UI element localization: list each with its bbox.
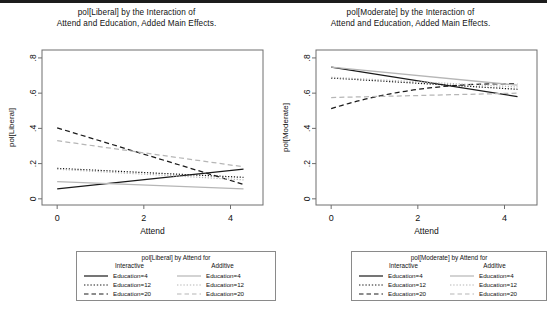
chart-title-line1: pol[Moderate] by the Interaction of <box>274 8 547 19</box>
legend-item: Education=12 <box>83 280 176 289</box>
chart-svg-liberal: 0.2.4.6.8024Attendpol[Liberal] <box>0 32 273 237</box>
legend-item-label: Education=4 <box>109 271 148 280</box>
plot-area-moderate: 0.2.4.6.8024Attendpol[Moderate] <box>274 32 547 237</box>
series-line <box>331 84 517 109</box>
chart-title-line2: Attend and Education, Added Main Effects… <box>274 19 547 30</box>
line-swatch-dotted-light <box>176 280 202 289</box>
legend-title: pol[Liberal] by Attend for <box>77 252 275 262</box>
legend-item-label: Education=4 <box>475 271 514 280</box>
legend-column-additive: Additive Education=4 Education=12 <box>449 262 540 298</box>
y-tick-label: 0 <box>28 196 38 201</box>
line-swatch-dashed-dark <box>83 289 109 298</box>
y-tick-label: .8 <box>28 54 38 61</box>
legend-item: Education=20 <box>83 289 176 298</box>
line-swatch-dashed-light <box>176 289 202 298</box>
line-swatch-solid-light <box>176 271 202 280</box>
y-axis-label: pol[Liberal] <box>7 108 16 147</box>
x-tick-label: 0 <box>329 213 334 223</box>
legend-item: Education=4 <box>358 271 449 280</box>
y-tick-label: .6 <box>28 89 38 96</box>
legend-item-label: Education=20 <box>202 289 244 298</box>
legend-liberal: pol[Liberal] by Attend for Interactive E… <box>76 251 276 301</box>
y-axis-label: pol[Moderate] <box>281 103 290 152</box>
legend-title: pol[Moderate] by Attend for <box>352 252 546 262</box>
line-swatch-dotted-dark <box>83 280 109 289</box>
y-tick-label: .2 <box>302 160 312 167</box>
series-line <box>331 93 517 97</box>
legend-column-head: Interactive <box>358 262 449 271</box>
y-tick-label: .2 <box>28 160 38 167</box>
legend-item-label: Education=4 <box>202 271 241 280</box>
series-line <box>331 78 517 89</box>
legend-item-label: Education=12 <box>475 280 517 289</box>
x-tick-label: 0 <box>55 213 60 223</box>
line-swatch-dotted-dark <box>358 280 384 289</box>
series-line <box>57 128 243 185</box>
legend-moderate: pol[Moderate] by Attend for Interactive … <box>351 251 547 301</box>
plot-area-liberal: 0.2.4.6.8024Attendpol[Liberal] <box>0 32 273 237</box>
legend-item: Education=12 <box>358 280 449 289</box>
line-swatch-dashed-dark <box>358 289 384 298</box>
legend-item: Education=4 <box>449 271 540 280</box>
line-swatch-solid-light <box>449 271 475 280</box>
y-tick-label: .8 <box>302 54 312 61</box>
x-axis-label: Attend <box>414 226 439 236</box>
legend-item: Education=20 <box>449 289 540 298</box>
line-swatch-solid-dark <box>83 271 109 280</box>
legend-column-interactive: Interactive Education=4 Education=12 <box>83 262 176 298</box>
legend-column-additive: Additive Education=4 Education=12 <box>176 262 269 298</box>
legend-column-head: Interactive <box>83 262 176 271</box>
line-swatch-dashed-light <box>449 289 475 298</box>
series-line <box>57 141 243 167</box>
chart-title-moderate: pol[Moderate] by the Interaction of Atte… <box>274 8 547 29</box>
plot-frame <box>316 50 537 205</box>
legend-columns: Interactive Education=4 Education=12 <box>77 262 275 301</box>
x-tick-label: 2 <box>415 213 420 223</box>
chart-title-line1: pol[Liberal] by the Interaction of <box>0 8 273 19</box>
legend-item-label: Education=20 <box>384 289 426 298</box>
series-line <box>57 169 243 180</box>
y-tick-label: .4 <box>302 125 312 132</box>
x-tick-label: 4 <box>228 213 233 223</box>
chart-title-liberal: pol[Liberal] by the Interaction of Atten… <box>0 8 273 29</box>
legend-item-label: Education=12 <box>109 280 151 289</box>
legend-item-label: Education=12 <box>384 280 426 289</box>
legend-column-interactive: Interactive Education=4 Education=12 <box>358 262 449 298</box>
legend-item-label: Education=20 <box>475 289 517 298</box>
legend-item: Education=4 <box>176 271 269 280</box>
legend-item: Education=12 <box>176 280 269 289</box>
line-swatch-solid-dark <box>358 271 384 280</box>
y-tick-label: .4 <box>28 125 38 132</box>
line-swatch-dotted-light <box>449 280 475 289</box>
legend-item-label: Education=4 <box>384 271 423 280</box>
legend-item: Education=20 <box>176 289 269 298</box>
legend-item: Education=12 <box>449 280 540 289</box>
legend-item: Education=20 <box>358 289 449 298</box>
figure-page: pol[Liberal] by the Interaction of Atten… <box>0 0 547 317</box>
chart-title-line2: Attend and Education, Added Main Effects… <box>0 19 273 30</box>
legend-column-head: Additive <box>176 262 269 271</box>
x-axis-label: Attend <box>140 226 165 236</box>
chart-svg-moderate: 0.2.4.6.8024Attendpol[Moderate] <box>274 32 547 237</box>
x-tick-label: 2 <box>141 213 146 223</box>
y-tick-label: 0 <box>302 196 312 201</box>
legend-column-head: Additive <box>449 262 540 271</box>
x-tick-label: 4 <box>502 213 507 223</box>
legend-item-label: Education=20 <box>109 289 151 298</box>
y-tick-label: .6 <box>302 89 312 96</box>
legend-item-label: Education=12 <box>202 280 244 289</box>
legend-columns: Interactive Education=4 Education=12 <box>352 262 546 301</box>
legend-item: Education=4 <box>83 271 176 280</box>
